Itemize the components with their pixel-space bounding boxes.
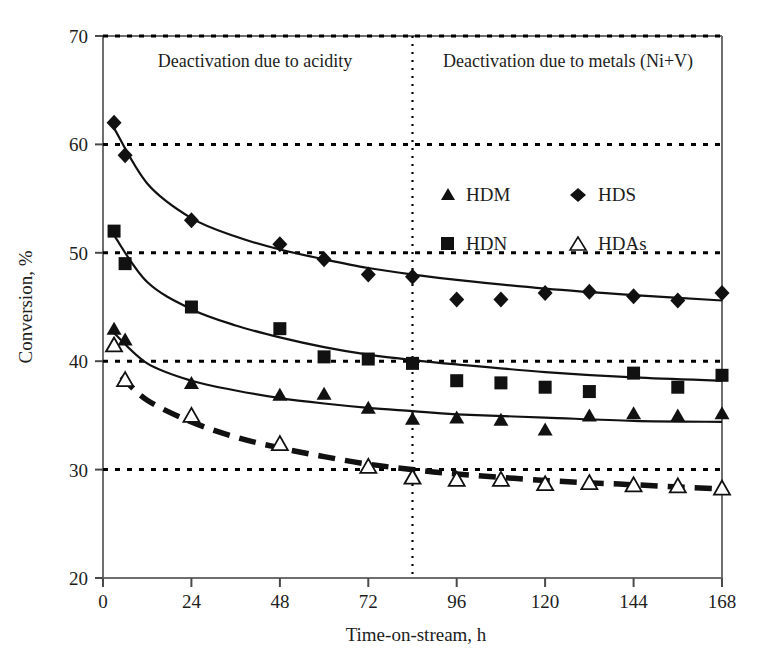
y-axis-title: Conversion, % bbox=[15, 250, 36, 363]
conversion-vs-time-chart: 70 60 50 40 30 20 0 24 48 72 96 120 144 bbox=[0, 0, 767, 664]
y-tick-label-70: 70 bbox=[69, 26, 88, 47]
legend-label-hdm: HDM bbox=[466, 184, 510, 205]
y-tick-label-60: 60 bbox=[69, 134, 88, 155]
x-axis-title: Time-on-stream, h bbox=[346, 624, 487, 645]
data-point-hdn bbox=[119, 257, 132, 270]
data-point-hdn bbox=[318, 350, 331, 363]
data-point-hdn bbox=[273, 322, 286, 335]
x-tick-label-120: 120 bbox=[531, 591, 560, 612]
data-point-hdn bbox=[627, 367, 640, 380]
annotation-left: Deactivation due to acidity bbox=[158, 51, 352, 71]
legend-marker-filled-square-icon bbox=[441, 237, 454, 250]
annotation-right: Deactivation due to metals (Ni+V) bbox=[443, 51, 693, 72]
data-point-hdn bbox=[583, 385, 596, 398]
legend-label-hds: HDS bbox=[598, 184, 636, 205]
data-point-hdn bbox=[450, 374, 463, 387]
x-tick-label-72: 72 bbox=[359, 591, 378, 612]
x-tick-label-48: 48 bbox=[270, 591, 289, 612]
legend-label-hdas: HDAs bbox=[598, 233, 647, 254]
chart-figure: 70 60 50 40 30 20 0 24 48 72 96 120 144 bbox=[0, 0, 767, 664]
data-point-hdn bbox=[539, 381, 552, 394]
x-tick-label-168: 168 bbox=[708, 591, 737, 612]
y-tick-label-20: 20 bbox=[69, 568, 88, 589]
x-tick-label-24: 24 bbox=[182, 591, 202, 612]
data-point-hdn bbox=[406, 357, 419, 370]
data-point-hdn bbox=[671, 381, 684, 394]
data-point-hdn bbox=[185, 301, 198, 314]
x-tick-label-0: 0 bbox=[98, 591, 108, 612]
y-tick-label-30: 30 bbox=[69, 460, 88, 481]
x-tick-label-96: 96 bbox=[447, 591, 466, 612]
legend-label-hdn: HDN bbox=[466, 233, 507, 254]
y-tick-label-40: 40 bbox=[69, 351, 88, 372]
x-tick-label-144: 144 bbox=[619, 591, 648, 612]
y-tick-label-50: 50 bbox=[69, 243, 88, 264]
data-point-hdn bbox=[362, 353, 375, 366]
data-point-hdn bbox=[494, 376, 507, 389]
data-point-hdn bbox=[716, 369, 729, 382]
data-point-hdn bbox=[108, 225, 121, 238]
